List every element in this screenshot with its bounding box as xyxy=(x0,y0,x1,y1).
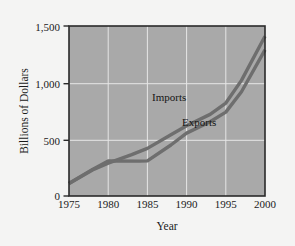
y-tick-label-1500: 1,500 xyxy=(35,21,60,33)
x-tick-label-1975: 1975 xyxy=(58,198,81,210)
chart-figure: 0 500 1,000 1,500 1975 1980 1985 1990 19… xyxy=(0,0,295,246)
x-tick-label-1980: 1980 xyxy=(97,198,120,210)
line-chart: 0 500 1,000 1,500 1975 1980 1985 1990 19… xyxy=(0,0,295,246)
plot-area-background xyxy=(69,26,265,196)
x-axis-title: Year xyxy=(156,220,177,232)
x-tick-label-1990: 1990 xyxy=(176,198,199,210)
x-tick-label-1985: 1985 xyxy=(136,198,159,210)
series-annotation-exports: Exports xyxy=(182,116,216,128)
y-tick-label-1000: 1,000 xyxy=(35,78,60,90)
y-axis-title: Billions of Dollars xyxy=(18,68,30,154)
x-tick-label-2000: 2000 xyxy=(254,198,277,210)
x-tick-label-1995: 1995 xyxy=(215,198,238,210)
y-tick-label-500: 500 xyxy=(44,135,61,147)
series-annotation-imports: Imports xyxy=(152,91,186,103)
